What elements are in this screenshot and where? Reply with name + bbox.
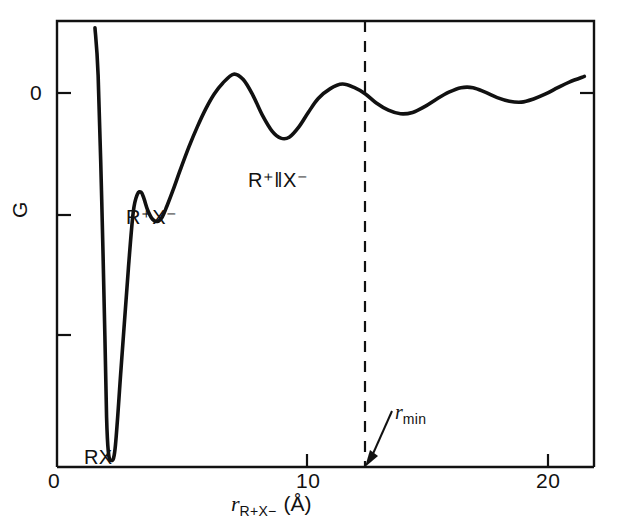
annotation-solvent-separated-ion-pair: R⁺‖X⁻	[248, 170, 308, 190]
annotation-rmin: rmin	[395, 402, 426, 426]
pmf-curve	[95, 28, 584, 461]
rmin-arrow	[365, 411, 392, 467]
annotation-contact-ion-pair: R⁺X⁻	[126, 207, 177, 227]
y-axis-title: G	[9, 202, 30, 218]
figure-container: 0 10 20 0 G rR+X−(Å) RX R⁺X⁻ R⁺‖X⁻ rmin	[0, 0, 617, 527]
x-tick-label-20: 20	[536, 470, 560, 491]
rmin-subscript: min	[403, 411, 426, 427]
x-axis-ticks	[307, 454, 548, 467]
annotation-rx: RX	[84, 447, 113, 467]
y-tick-label-zero: 0	[30, 82, 42, 103]
x-tick-label-0: 0	[48, 470, 60, 491]
rmin-symbol: r	[395, 401, 403, 423]
plot-frame	[57, 21, 594, 467]
x-tick-label-10: 10	[296, 470, 320, 491]
x-axis-title-units: (Å)	[277, 492, 312, 515]
x-axis-title-symbol: r	[231, 491, 240, 516]
x-axis-title: rR+X−(Å)	[231, 493, 312, 518]
x-axis-title-subscript: R+X−	[240, 503, 277, 519]
